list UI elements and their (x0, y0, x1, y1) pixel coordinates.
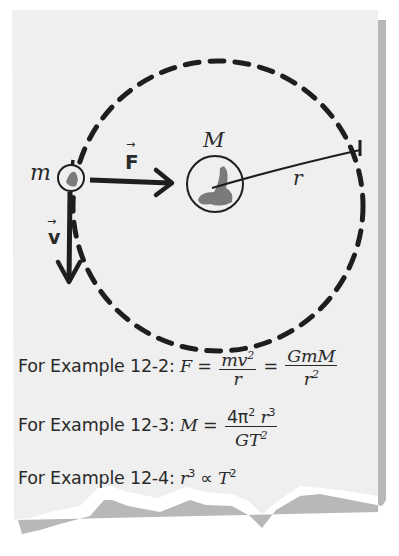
equals-sign: = (263, 356, 277, 376)
exponent: 2 (248, 406, 255, 419)
equation-lhs: r (180, 468, 188, 488)
fraction-GmM-over-r2: GmM r2 (285, 347, 337, 388)
exponent: 2 (312, 368, 319, 381)
force-vector-arrow-icon: → (126, 138, 135, 151)
equation-lhs: M (180, 415, 198, 435)
equation-12-3: For Example 12-3: M = 4π2 r3 GT2 (18, 404, 279, 449)
numerator-part: 4π (227, 407, 248, 427)
proportional-sign: ∝ (200, 468, 212, 488)
equation-prefix: For Example 12-2: (18, 356, 175, 376)
exponent: 3 (188, 467, 195, 480)
equation-12-4: For Example 12-4: r3 ∝ T2 (18, 467, 236, 488)
exponent: 2 (247, 349, 254, 362)
label-radius: r (293, 166, 303, 190)
label-velocity: v (48, 226, 60, 248)
equation-prefix: For Example 12-3: (18, 415, 175, 435)
exponent: 3 (269, 406, 276, 419)
label-large-mass: M (203, 128, 225, 152)
equals-sign: = (197, 356, 211, 376)
denominator: GT (235, 430, 260, 450)
equals-sign: = (203, 415, 217, 435)
equation-lhs: F (180, 356, 192, 376)
label-small-mass: m (30, 160, 51, 185)
denominator: r (219, 370, 256, 388)
fraction-mv2-over-r: mv2 r (219, 347, 256, 388)
numerator: mv (221, 350, 247, 370)
velocity-vector-arrow-icon: → (47, 215, 56, 228)
large-mass-M (187, 156, 243, 212)
numerator-part: r (260, 407, 268, 427)
equation-12-2: For Example 12-2: F = mv2 r = GmM r2 (18, 347, 339, 388)
equation-prefix: For Example 12-4: (18, 468, 175, 488)
exponent: 2 (260, 429, 267, 442)
equation-rhs: T (218, 468, 229, 488)
label-force: F (125, 150, 139, 174)
denominator: r (304, 369, 312, 389)
exponent: 2 (230, 467, 237, 480)
numerator: GmM (285, 347, 337, 366)
fraction-4pi2r3-over-GT2: 4π2 r3 GT2 (225, 404, 277, 449)
